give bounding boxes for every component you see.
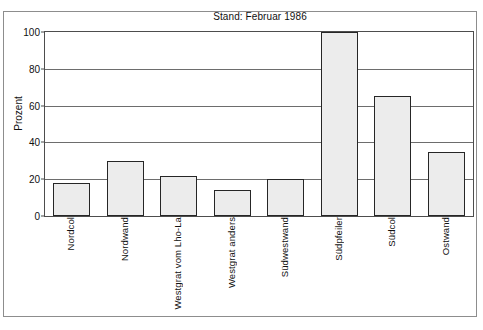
y-tick-label: 20 <box>29 174 40 185</box>
bar <box>267 179 304 216</box>
x-tick-label: Ostwand <box>440 217 451 255</box>
x-tick-label: Südpfeiler <box>333 217 344 261</box>
x-tick-label: Nordwand <box>119 217 130 261</box>
bar <box>53 183 90 216</box>
y-tick-label: 100 <box>23 27 40 38</box>
x-tick-label: Westgrat anders <box>226 217 237 288</box>
bars-layer <box>45 32 473 216</box>
bar <box>214 190 251 216</box>
chart-title: Stand: Februar 1986 <box>44 11 476 22</box>
x-tick-label: Südwestwand <box>279 217 290 277</box>
bar <box>107 161 144 216</box>
x-axis-labels: NordcolNordwandWestgrat vom Lho-LaWestgr… <box>44 217 472 317</box>
x-tick-label: Nordcol <box>65 217 76 250</box>
bar <box>160 176 197 216</box>
bar <box>374 96 411 216</box>
x-tick-label: Westgrat vom Lho-La <box>172 217 183 310</box>
plot-area: 020406080100 <box>44 31 474 217</box>
y-tick-label: 80 <box>29 63 40 74</box>
chart-screenshot: Stand: Februar 1986 Prozent 020406080100… <box>0 0 483 330</box>
x-tick-label: Südcol <box>386 217 397 247</box>
bar <box>321 32 358 216</box>
bar <box>428 152 465 216</box>
y-tick-label: 0 <box>34 211 40 222</box>
y-tick-label: 60 <box>29 100 40 111</box>
y-tick-label: 40 <box>29 137 40 148</box>
y-axis-title: Prozent <box>13 84 24 144</box>
